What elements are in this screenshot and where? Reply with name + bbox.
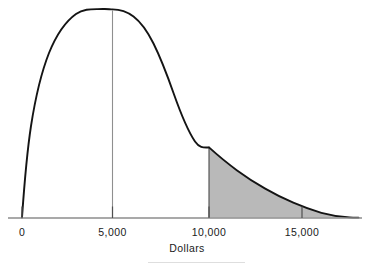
x-tick-label-15000: 15,000 (285, 226, 320, 238)
x-axis-title: Dollars (169, 242, 204, 254)
chart-container: 0 5,000 10,000 15,000 Dollars (0, 0, 367, 264)
x-tick-label-0: 0 (19, 226, 25, 238)
x-tick-label-5000: 5,000 (98, 226, 126, 238)
x-tick-label-10000: 10,000 (192, 226, 227, 238)
density-curve (22, 9, 359, 218)
shaded-tail (209, 147, 358, 217)
skewed-distribution-chart: 0 5,000 10,000 15,000 Dollars (0, 0, 367, 264)
